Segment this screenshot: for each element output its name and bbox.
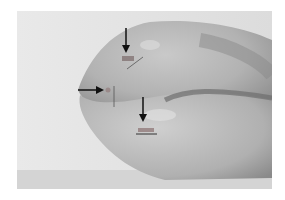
specimen-photo — [17, 11, 272, 189]
